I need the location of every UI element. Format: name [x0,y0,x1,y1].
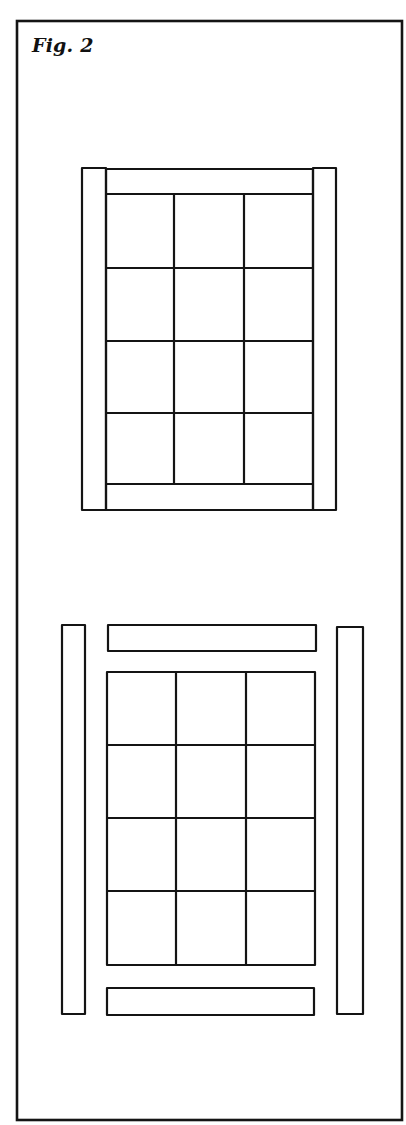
top-border-strip [106,169,313,194]
figure-frame [17,21,402,1120]
bottom-border-strip [106,484,313,510]
quilt-assembly-diagram [0,0,406,1125]
assembled-quilt [82,168,336,510]
right-border-strip [337,627,363,1014]
left-border-strip [62,625,85,1014]
top-border-strip [108,625,316,651]
figure-canvas: Fig. 2 [0,0,406,1125]
exploded-quilt [62,625,363,1015]
figure-label: Fig. 2 [32,34,94,56]
right-border-strip [313,168,336,510]
left-border-strip [82,168,106,510]
bottom-border-strip [107,988,314,1015]
block-grid [106,194,313,484]
